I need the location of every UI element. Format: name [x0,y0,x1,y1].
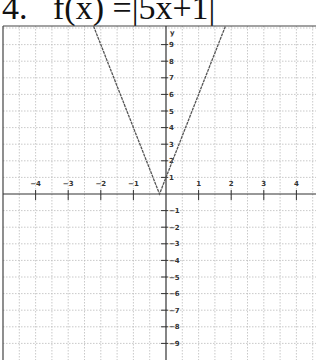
x-tick-label: −1 [128,180,139,188]
function-graph: −4−3−2−11234987654321−1−2−3−4−5−6−7−8−9y [0,0,316,360]
x-tick-label: −3 [63,180,74,188]
x-tick-label: −4 [30,180,41,188]
y-tick-label: −7 [169,307,180,315]
y-tick-label: 8 [169,58,174,66]
y-tick-label: −5 [169,274,180,282]
y-tick-label: −2 [169,224,180,232]
x-tick-label: 1 [196,180,201,188]
abs-value-line [94,26,226,194]
y-tick-label: −4 [169,257,180,265]
y-tick-label: 4 [169,124,174,132]
x-tick-label: 3 [261,180,266,188]
y-tick-label: 5 [169,108,174,116]
y-tick-label: 1 [169,174,174,182]
y-tick-label: 9 [169,41,174,49]
y-tick-label: 7 [169,74,174,82]
x-tick-label: 2 [229,180,234,188]
y-tick-label: −8 [169,323,180,331]
y-tick-label: −3 [169,240,180,248]
y-axis-label: y [170,29,175,37]
y-tick-label: 3 [169,141,174,149]
y-tick-label: −9 [169,340,180,348]
x-tick-label: −2 [95,180,106,188]
tick-labels: −4−3−2−11234987654321−1−2−3−4−5−6−7−8−9y [30,29,299,348]
y-tick-label: −1 [169,207,180,215]
function-curve [94,26,226,194]
y-tick-label: 6 [169,91,174,99]
y-tick-label: −6 [169,290,180,298]
x-tick-label: 4 [294,180,299,188]
